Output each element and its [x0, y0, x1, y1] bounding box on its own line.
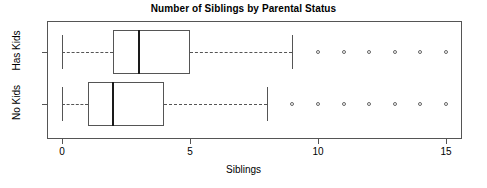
y-axis-tick	[42, 104, 47, 105]
x-axis-title: Siblings	[0, 164, 487, 175]
outlier-point	[316, 102, 320, 106]
outlier-point	[444, 50, 448, 54]
whisker-cap-low	[62, 35, 63, 69]
outlier-point	[393, 50, 397, 54]
outlier-point	[342, 102, 346, 106]
whisker-cap-high	[267, 87, 268, 121]
box-iqr	[113, 30, 190, 74]
x-axis-tick-label: 15	[426, 146, 466, 157]
x-axis-tick	[62, 139, 63, 144]
outlier-point	[393, 102, 397, 106]
whisker-line-low	[62, 52, 113, 53]
y-axis-category-label: No Kids	[11, 58, 22, 148]
outlier-point	[316, 50, 320, 54]
boxplot-figure: Number of Siblings by Parental Status 05…	[0, 0, 487, 188]
whisker-line-high	[190, 52, 292, 53]
outlier-point	[342, 50, 346, 54]
whisker-cap-low	[62, 87, 63, 121]
x-axis-tick-label: 10	[298, 146, 338, 157]
median-line	[112, 82, 114, 126]
x-axis-tick	[190, 139, 191, 144]
outlier-point	[444, 102, 448, 106]
median-line	[138, 30, 140, 74]
x-axis-tick-label: 5	[170, 146, 210, 157]
whisker-line-low	[62, 104, 88, 105]
x-axis-tick-label: 0	[42, 146, 82, 157]
x-axis-tick	[446, 139, 447, 144]
whisker-line-high	[164, 104, 266, 105]
y-axis-tick	[42, 52, 47, 53]
x-axis-tick	[318, 139, 319, 144]
box-iqr	[88, 82, 165, 126]
whisker-cap-high	[292, 35, 293, 69]
chart-title: Number of Siblings by Parental Status	[0, 3, 487, 14]
